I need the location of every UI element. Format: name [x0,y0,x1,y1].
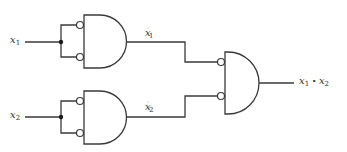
gate-1 [77,15,127,68]
label-x1: x1 [10,35,20,47]
gate-3 [218,52,259,114]
gate-2 [77,91,127,144]
wire-x1-complement [126,42,217,62]
label-x2: x2 [10,110,20,122]
inversion-bubble [77,98,84,105]
gate-2-input-wiring [25,101,76,133]
junction-dot-x1 [59,40,63,44]
inversion-bubble [218,93,225,100]
inversion-bubble [218,59,225,66]
inversion-bubble [77,54,84,61]
junction-dot-x2 [59,115,63,119]
label-x1-complement: x′1 [145,27,153,40]
gate-1-input-wiring [25,25,76,57]
label-x2-complement: x′2 [145,101,153,114]
inversion-bubble [77,130,84,137]
label-output: x1 • x2 [299,76,329,88]
logic-circuit-diagram [0,0,347,152]
wire-x2-complement [126,96,217,117]
inversion-bubble [77,22,84,29]
